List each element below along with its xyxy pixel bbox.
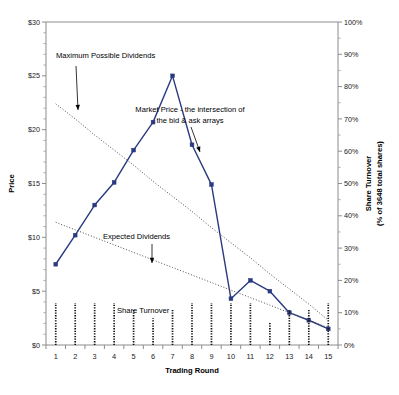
right-axis-tick-label: 80%: [344, 82, 359, 91]
bottom-axis-tick-label: 1: [54, 352, 58, 361]
right-axis-title-line2: (% of 3648 total shares): [375, 141, 384, 226]
left-axis-tick-label: $30: [28, 18, 40, 27]
right-axis-tick-label: 70%: [344, 115, 359, 124]
left-axis-tick-label: $0: [32, 341, 40, 350]
bottom-axis-tick-label: 11: [247, 352, 255, 361]
bottom-axis-tick-label: 6: [151, 352, 155, 361]
bottom-axis-tick-label: 2: [73, 352, 77, 361]
annotation-market-price-arrow-head: [196, 146, 200, 152]
market-price-marker: [112, 181, 116, 185]
right-axis-tick-label: 50%: [344, 179, 359, 188]
annotation-expected-dividends: Expected Dividends: [103, 232, 170, 241]
bottom-axis-tick-label: 9: [209, 352, 213, 361]
left-axis-tick-label: $5: [32, 287, 40, 296]
chart-container: $0$5$10$15$20$25$30Price0%10%20%30%40%50…: [0, 0, 399, 395]
right-axis-tick-label: 30%: [344, 244, 359, 253]
market-price-marker: [151, 120, 155, 124]
bottom-axis-tick-label: 15: [324, 352, 332, 361]
right-axis-tick-label: 100%: [344, 18, 363, 27]
right-axis-tick-label: 60%: [344, 147, 359, 156]
market-price-marker: [171, 74, 175, 78]
left-axis-tick-label: $25: [28, 71, 40, 80]
bottom-axis-tick-label: 3: [93, 352, 97, 361]
annotation-max-dividends: Maximum Possible Dividends: [56, 51, 155, 60]
market-price-marker: [93, 203, 97, 207]
right-axis-tick-label: 40%: [344, 211, 359, 220]
bottom-axis-tick-label: 10: [227, 352, 235, 361]
bottom-axis-tick-label: 4: [112, 352, 116, 361]
right-axis-tick-label: 20%: [344, 276, 359, 285]
right-axis-tick-label: 90%: [344, 50, 359, 59]
market-price-marker: [229, 297, 233, 301]
market-price-marker: [54, 262, 58, 266]
right-axis-tick-label: 0%: [344, 341, 355, 350]
annotation-max-dividends-arrow-line: [76, 66, 78, 110]
price-turnover-chart: $0$5$10$15$20$25$30Price0%10%20%30%40%50…: [0, 0, 399, 395]
left-axis-tick-label: $15: [28, 179, 40, 188]
bottom-axis-tick-label: 7: [170, 352, 174, 361]
left-axis-title: Price: [7, 174, 16, 193]
bottom-axis-tick-label: 5: [132, 352, 136, 361]
bottom-axis-tick-label: 14: [305, 352, 313, 361]
annotation-max-dividends-arrow-head: [76, 105, 80, 110]
market-price-marker: [210, 183, 214, 187]
bottom-axis-title: Trading Round: [165, 366, 219, 375]
bottom-axis-tick-label: 8: [190, 352, 194, 361]
annotation-share-turnover: Share Turnover: [117, 306, 170, 315]
left-axis-tick-label: $20: [28, 125, 40, 134]
left-axis-tick-label: $10: [28, 233, 40, 242]
right-axis-title-line1: Share Turnover: [364, 156, 373, 212]
trend-line: [56, 104, 329, 320]
market-price-marker: [268, 289, 272, 293]
annotation-market-price-line1: Market Price - the intersection of: [135, 105, 245, 114]
bottom-axis-tick-label: 13: [285, 352, 293, 361]
right-axis-tick-label: 10%: [344, 308, 359, 317]
market-price-marker: [249, 279, 253, 283]
market-price-marker: [132, 148, 136, 152]
market-price-marker: [73, 233, 77, 237]
bottom-axis-tick-label: 12: [266, 352, 274, 361]
market-price-marker: [190, 143, 194, 147]
annotation-market-price-line2: the bid & ask arrays: [156, 116, 223, 125]
